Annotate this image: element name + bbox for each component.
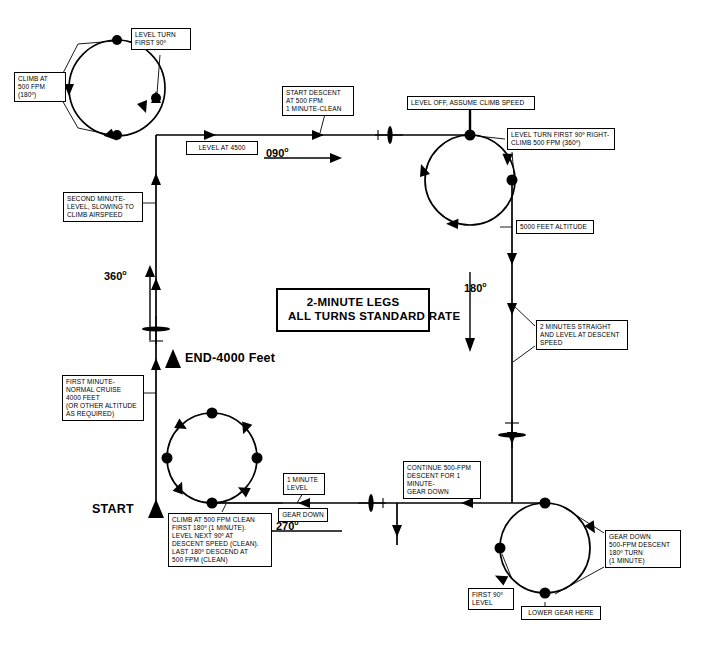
leader-gear-down-right-b <box>555 567 604 594</box>
arrow-bottom-stub-down <box>392 525 402 537</box>
arrow-top-leg-right-2 <box>312 130 324 140</box>
callout-first-minute: FIRST MINUTE- NORMAL CRUISE 4000 FEET (O… <box>62 375 144 421</box>
arrow-left-leg-up-2 <box>151 358 161 370</box>
leader-level-turn-right-a <box>477 136 505 139</box>
leader-climb-180-b <box>62 100 116 136</box>
arrow-top-leg-right-1 <box>204 130 216 140</box>
arrow-tr-left <box>420 164 430 177</box>
heading-180-head <box>465 338 475 352</box>
callout-level-at-4500: LEVEL AT 4500 <box>186 141 258 155</box>
bottom-right-turn-circle <box>500 503 590 593</box>
node-bl-left <box>162 453 173 464</box>
top-right-turn-circle <box>425 135 515 225</box>
arrow-bl-lower-right <box>237 481 253 497</box>
callout-two-minutes-straight: 2 MINUTES STRAIGHT AND LEVEL AT DESCENT … <box>536 320 628 350</box>
heading-090-value: 090 <box>266 147 284 159</box>
top-left-turn-circle <box>69 40 165 136</box>
heading-label-090: 090o <box>266 146 289 159</box>
callout-5000-feet-altitude: 5000 FEET ALTITUDE <box>516 220 594 234</box>
node-bl-top <box>207 408 218 419</box>
heading-180-value: 180 <box>464 282 482 294</box>
arrow-left-leg-up-3 <box>151 173 161 185</box>
airplane-icon-top <box>375 126 403 144</box>
arrow-right-leg-down-2 <box>507 303 517 315</box>
node-tr-right <box>507 175 518 186</box>
node-bl-right <box>252 453 263 464</box>
leader-climb-180-a <box>62 41 115 75</box>
flight-pattern-diagram: CLIMB AT 500 FPM (180º) LEVEL TURN FIRST… <box>0 0 704 649</box>
callout-level-turn-first-90: LEVEL TURN FIRST 90º <box>131 28 191 50</box>
callout-one-minute-level: 1 MINUTE LEVEL <box>283 473 325 495</box>
callout-first-90-level: FIRST 90º LEVEL <box>468 588 514 610</box>
airplane-icon-left <box>142 316 170 344</box>
arrow-tr-bottom <box>446 215 462 229</box>
start-label: START <box>92 502 134 516</box>
callout-gear-down-right: GEAR DOWN 500-FPM DESCENT 180º TURN (1 M… <box>605 530 681 568</box>
heading-label-360: 360o <box>104 269 127 282</box>
callout-lower-gear-here: LOWER GEAR HERE <box>521 606 601 620</box>
airplane-bottom-wing <box>368 494 373 512</box>
bottom-right-circle-path <box>500 503 590 593</box>
heading-090-degree: o <box>284 146 288 153</box>
airplane-top-wing <box>387 126 392 144</box>
heading-label-270: 270o <box>276 519 299 532</box>
airplane-right-wing <box>498 433 526 438</box>
callout-level-turn-first-90-right: LEVEL TURN FIRST 90º RIGHT- CLIMB 500 FP… <box>507 128 615 150</box>
end-marker-triangle <box>165 349 181 368</box>
top-right-circle-arrows <box>420 150 513 229</box>
arrow-bottom-leg-left-1 <box>461 498 473 508</box>
heading-label-180: 180o <box>464 281 487 294</box>
node-br-bottom <box>540 588 551 599</box>
node-br-top <box>540 498 551 509</box>
heading-180-degree: o <box>482 281 486 288</box>
heading-270-value: 270 <box>276 520 294 532</box>
callout-climb-clean-sequence: CLIMB AT 500 FPM CLEAN FIRST 180º (1 MIN… <box>168 513 272 567</box>
title-box: 2-MINUTE LEGS ALL TURNS STANDARD RATE <box>276 288 430 332</box>
leader-climb-clean <box>222 504 226 512</box>
top-right-circle-path <box>425 135 515 225</box>
heading-360-value: 360 <box>104 270 122 282</box>
airplane-left-wing <box>142 327 170 332</box>
arrow-br-lower-left <box>494 569 510 585</box>
top-left-circle-nodes <box>112 35 161 140</box>
end-label: END-4000 Feet <box>185 351 275 365</box>
leader-2min-straight-b <box>513 346 535 362</box>
airplane-icon-bottom <box>358 494 386 512</box>
title-line-1: 2-MINUTE LEGS <box>288 295 418 309</box>
callout-level-off-climb-speed: LEVEL OFF, ASSUME CLIMB SPEED <box>407 96 535 110</box>
node-tl-bottom <box>112 130 122 140</box>
main-track <box>156 135 545 545</box>
callout-climb-500-180: CLIMB AT 500 FPM (180º) <box>14 72 66 102</box>
node-tl-top <box>112 35 122 45</box>
callout-second-minute: SECOND MINUTE- LEVEL, SLOWING TO CLIMB A… <box>63 192 143 222</box>
heading-090-head <box>330 153 342 163</box>
airplane-icon-right <box>498 420 526 448</box>
leader-2min-straight-a <box>513 305 535 326</box>
heading-360-head <box>145 265 155 277</box>
callout-continue-descent: CONTINUE 500-FPM DESCENT FOR 1 MINUTE- G… <box>403 461 481 499</box>
top-left-circle-path <box>69 40 165 136</box>
start-marker-triangle <box>148 499 164 518</box>
leader-gear-down-right-a <box>560 505 604 533</box>
bottom-left-circle-arrows <box>172 418 254 497</box>
arrow-left-leg-up-1 <box>151 278 161 290</box>
leader-start-descent <box>320 114 325 133</box>
arrow-tl-right <box>137 100 147 113</box>
callout-start-descent: START DESCENT AT 500 FPM 1 MINUTE-CLEAN <box>282 86 354 116</box>
heading-360-degree: o <box>122 269 126 276</box>
arrow-right-leg-down-1 <box>507 253 517 265</box>
heading-270-degree: o <box>294 519 298 526</box>
arrow-bottom-leg-left-2 <box>298 498 310 508</box>
title-line-2: ALL TURNS STANDARD RATE <box>288 309 418 324</box>
node-br-left <box>495 543 506 554</box>
start-end-markers <box>148 349 181 518</box>
